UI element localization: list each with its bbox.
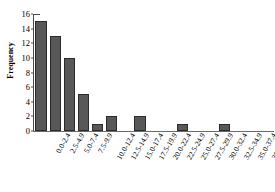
plot-area bbox=[33, 14, 274, 131]
y-tick-label: 8 bbox=[14, 68, 30, 77]
bar bbox=[64, 58, 75, 131]
bar bbox=[177, 124, 188, 131]
bar bbox=[134, 116, 145, 131]
x-axis-tick-labels: 0.0-2.42.5-4.95.0-7.47.5-9.910.0-12.412.… bbox=[33, 132, 274, 192]
y-tick-label: 0 bbox=[14, 127, 30, 136]
y-tick-label: 16 bbox=[14, 10, 30, 19]
y-tick-label: 12 bbox=[14, 39, 30, 48]
histogram-chart: Frequency 0246810121416 0.0-2.42.5-4.95.… bbox=[0, 0, 275, 192]
y-tick-label: 10 bbox=[14, 53, 30, 62]
y-tick-label: 2 bbox=[14, 112, 30, 121]
y-tick-label: 14 bbox=[14, 24, 30, 33]
bar bbox=[50, 36, 61, 131]
bar bbox=[106, 116, 117, 131]
bar-series bbox=[34, 14, 274, 131]
bar bbox=[219, 124, 230, 131]
bar bbox=[35, 21, 46, 131]
bar bbox=[78, 94, 89, 131]
y-tick-label: 4 bbox=[14, 97, 30, 106]
y-tick-label: 6 bbox=[14, 83, 30, 92]
y-axis-tick-labels: 0246810121416 bbox=[14, 14, 30, 131]
bar bbox=[92, 124, 103, 131]
